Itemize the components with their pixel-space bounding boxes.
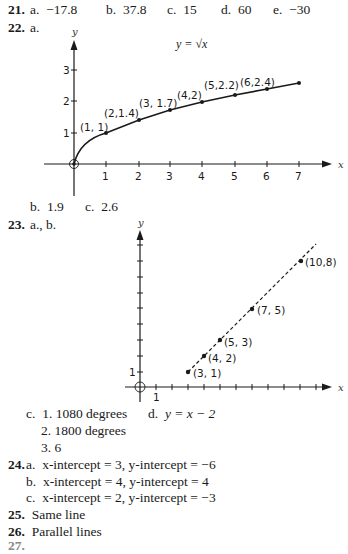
- problem-24: 24.: [8, 457, 25, 473]
- answer-24c: c. x-intercept = 2, y-intercept = −3: [26, 490, 216, 506]
- svg-text:y: y: [137, 217, 144, 228]
- answer-23d: d. y = x − 2: [148, 406, 215, 422]
- graph-line: x y 1 1 (3, 1) (4, 2) (: [0, 0, 348, 420]
- answer-24b: b. x-intercept = 4, y-intercept = 4: [26, 474, 209, 490]
- problem-27-partial: 27.: [8, 538, 25, 554]
- answer-23c-2: 2. 1800 degrees: [41, 423, 126, 439]
- svg-text:x: x: [338, 382, 344, 393]
- svg-text:1: 1: [153, 391, 160, 403]
- answer-23c-3: 3. 6: [41, 440, 61, 456]
- answer-24a: a. x-intercept = 3, y-intercept = −6: [26, 457, 216, 473]
- answer-23c-1: c. 1. 1080 degrees: [26, 406, 127, 422]
- svg-text:(10,8): (10,8): [305, 256, 337, 268]
- svg-text:(4, 2): (4, 2): [208, 352, 236, 364]
- svg-text:(5, 3): (5, 3): [224, 336, 252, 348]
- svg-text:(3, 1): (3, 1): [193, 367, 221, 379]
- problem-25: 25. Same line: [8, 507, 85, 523]
- svg-text:1: 1: [129, 366, 136, 378]
- svg-text:(7, 5): (7, 5): [257, 304, 285, 316]
